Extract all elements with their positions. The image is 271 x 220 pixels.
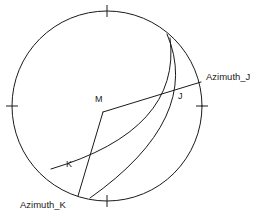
stereonet-figure: M J K Azimuth_J Azimuth_K <box>0 0 271 220</box>
azimuth-k-line <box>78 112 103 196</box>
point-label-k: K <box>66 160 72 169</box>
azimuth-j-line <box>103 82 201 112</box>
azimuth-k-label: Azimuth_K <box>20 200 66 210</box>
great-circle-arc-j <box>90 34 176 198</box>
point-label-j: J <box>178 92 183 101</box>
azimuth-j-label: Azimuth_J <box>206 72 250 82</box>
primitive-circle <box>12 11 202 201</box>
point-label-m: M <box>95 95 103 104</box>
stereonet-canvas <box>0 0 271 220</box>
great-circle-arc-k <box>51 38 171 169</box>
